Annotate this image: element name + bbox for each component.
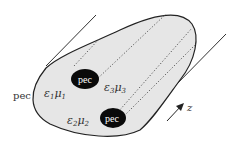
conductor-lower: pec bbox=[100, 108, 126, 128]
conductor-upper-label: pec bbox=[78, 74, 92, 85]
conductor-lower-label: pec bbox=[105, 113, 119, 124]
conductor-upper: pec bbox=[71, 69, 99, 89]
z-axis-arrow: z bbox=[167, 102, 193, 121]
outer-pec-label: pec bbox=[13, 90, 31, 101]
waveguide-diagram: pec pec pec ε1μ1 ε3μ3 ε2μ2 z bbox=[0, 0, 235, 143]
z-axis-label: z bbox=[186, 102, 193, 113]
